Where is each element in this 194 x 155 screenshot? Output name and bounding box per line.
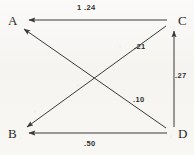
edge-label-d-to-a: .10 bbox=[133, 96, 145, 104]
edge-label-d-to-c: .27 bbox=[175, 72, 187, 80]
edge-label-c-to-b: .21 bbox=[134, 43, 146, 51]
edge-label-d-to-b: .50 bbox=[84, 140, 96, 148]
diagram-canvas bbox=[0, 0, 194, 155]
node-a: A bbox=[8, 14, 17, 27]
path-diagram-figure: A B C D 1 .24 .21 .10 .27 .50 bbox=[0, 0, 194, 155]
node-d: D bbox=[178, 127, 187, 140]
node-c: C bbox=[178, 14, 187, 27]
edge-label-c-to-a: 1 .24 bbox=[77, 4, 96, 12]
node-b: B bbox=[8, 127, 17, 140]
